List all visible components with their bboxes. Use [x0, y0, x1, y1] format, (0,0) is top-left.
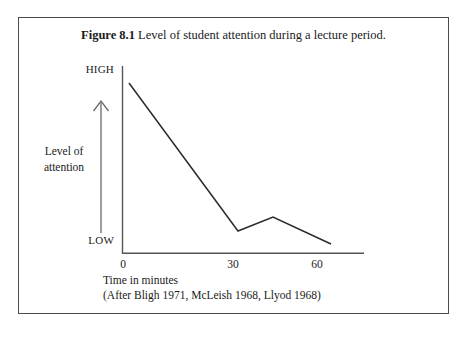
figure-frame: Figure 8.1 Level of student attention du…: [18, 17, 449, 314]
chart-plot-area: HIGH LOW Level of attention 0 30 60 Time…: [19, 18, 450, 315]
x-tick-label-60: 60: [302, 258, 332, 270]
figure-source-note: (After Bligh 1971, McLeish 1968, Llyod 1…: [103, 289, 321, 301]
x-tick-label-30: 30: [218, 258, 248, 270]
x-tick-label-0: 0: [108, 258, 138, 270]
x-axis-title: Time in minutes: [103, 274, 178, 286]
attention-line-chart: [19, 18, 450, 315]
attention-data-line: [129, 83, 331, 244]
